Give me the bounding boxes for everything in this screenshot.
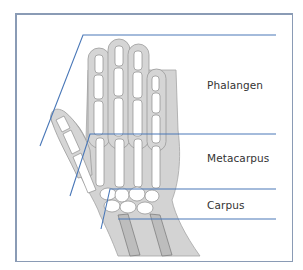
hand-illustration [0,0,303,270]
label-phalangen: Phalangen [207,79,263,91]
label-metacarpus: Metacarpus [207,152,269,164]
label-carpus: Carpus [207,199,244,211]
